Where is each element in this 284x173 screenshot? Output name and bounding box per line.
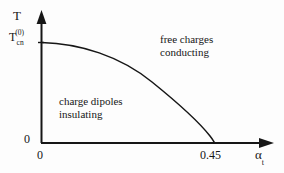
y-tick-superscript: (0): [15, 28, 24, 37]
y-tick-subscript: cn: [17, 38, 24, 47]
y-axis-tick-label-zero: 0: [24, 132, 30, 146]
x-axis-tick-label-zero: 0: [37, 148, 43, 162]
region-label-conducting: free charges conducting: [160, 33, 213, 59]
region-insulating-line2: insulating: [59, 108, 123, 121]
x-axis-label-subscript: t: [262, 158, 264, 167]
region-label-insulating: charge dipoles insulating: [59, 95, 123, 121]
region-insulating-line1: charge dipoles: [59, 95, 123, 107]
x-axis-label-base: α: [255, 147, 262, 162]
y-axis-arrowhead: [37, 10, 47, 24]
y-axis-tick-label-critical: T(0)cn: [9, 30, 32, 47]
region-conducting-line2: conducting: [160, 46, 213, 59]
y-axis-label: T: [13, 8, 21, 23]
x-axis-label: αt: [255, 147, 264, 165]
region-conducting-line1: free charges: [160, 33, 213, 45]
phase-diagram-figure: T T(0)cn 0 0 0.45 αt free charges conduc…: [0, 0, 284, 173]
x-axis-tick-label-critical: 0.45: [200, 148, 221, 162]
